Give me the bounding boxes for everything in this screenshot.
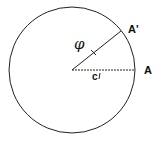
c-tick <box>99 73 100 79</box>
label-a: A <box>144 65 152 76</box>
diagram-graphics <box>0 0 161 142</box>
rotation-diagram: A' A φ c <box>0 0 161 142</box>
label-a-prime: A' <box>128 24 139 35</box>
label-c: c <box>92 72 98 82</box>
label-angle-phi: φ <box>74 37 85 52</box>
